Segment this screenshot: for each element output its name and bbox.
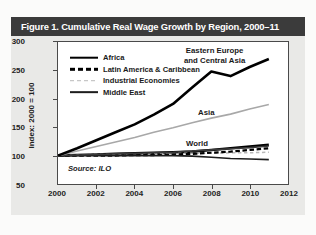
legend-swatch-icon: [70, 76, 98, 86]
x-tick-mark: [173, 185, 174, 189]
y-axis-label: Index: 2000 = 100: [27, 78, 36, 154]
legend-label: Latin America & Caribbean: [103, 65, 200, 74]
y-tick-label: 200: [0, 94, 25, 103]
x-tick-label: 2004: [125, 189, 143, 198]
x-tick-mark: [250, 185, 251, 189]
legend-label: Industrial Economies: [103, 76, 180, 85]
y-tick-label: 300: [0, 37, 25, 46]
page-title: Figure 1. Cumulative Real Wage Growth by…: [11, 21, 279, 32]
annotation-eastern-europe: Eastern Europe and Central Asia: [184, 46, 245, 65]
legend-swatch-icon: [70, 64, 98, 74]
figure-title-bar: Figure 1. Cumulative Real Wage Growth by…: [11, 17, 305, 36]
annotation-world: World: [186, 139, 208, 149]
annotation-asia: Asia: [198, 108, 214, 118]
legend-swatch-icon: [70, 53, 98, 63]
annotation-line-1: Asia: [198, 108, 214, 118]
x-tick-label: 2006: [164, 189, 182, 198]
x-tick-mark: [212, 185, 213, 189]
annotation-line-2: and Central Asia: [184, 56, 245, 66]
legend-label: Africa: [103, 53, 125, 62]
legend-item-africa: Africa: [70, 52, 200, 64]
legend-label: Middle East: [103, 88, 145, 97]
legend-item-middle-east: Middle East: [70, 87, 200, 99]
x-tick-label: 2008: [203, 189, 221, 198]
y-tick-label: 250: [0, 65, 25, 74]
chart-legend: Africa Latin America & Caribbean Industr…: [70, 52, 200, 98]
x-tick-mark: [134, 185, 135, 189]
legend-swatch-icon: [70, 87, 98, 97]
legend-item-industrial-economies: Industrial Economies: [70, 75, 200, 87]
plot-container: Index: 2000 = 100 50 100 150 200 250 300…: [11, 36, 305, 215]
series-line: [58, 156, 269, 160]
y-tick-label: 50: [0, 181, 25, 190]
x-tick-label: 2012: [280, 189, 298, 198]
x-tick-mark: [96, 185, 97, 189]
legend-item-latin-america-caribbean: Latin America & Caribbean: [70, 64, 200, 76]
annotation-line-1: Eastern Europe: [184, 46, 245, 56]
y-tick-label: 100: [0, 152, 25, 161]
x-tick-label: 2002: [87, 189, 105, 198]
x-tick-label: 2000: [48, 189, 66, 198]
y-tick-label: 150: [0, 123, 25, 132]
figure-card: Figure 1. Cumulative Real Wage Growth by…: [11, 17, 305, 215]
x-tick-label: 2010: [241, 189, 259, 198]
annotation-line-1: World: [186, 139, 208, 149]
source-note: Source: ILO: [68, 164, 111, 173]
plot-area: Africa Latin America & Caribbean Industr…: [57, 41, 289, 185]
